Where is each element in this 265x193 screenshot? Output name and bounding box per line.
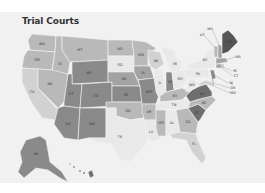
state-label-nc: NC <box>201 101 207 105</box>
state-mi[interactable] <box>160 46 182 72</box>
state-label-ms: MS <box>158 121 164 125</box>
callout-label-md: MD <box>230 91 236 95</box>
state-label-la: LA <box>149 130 154 134</box>
hawaii-island[interactable] <box>73 166 75 168</box>
state-ct[interactable] <box>216 64 222 68</box>
map-panel: Trial Courts WAORCAIDNVMTWYUTCOAZNMNDSDN… <box>0 12 265 183</box>
state-label-az: AZ <box>66 122 71 126</box>
callout-leader-line <box>204 35 215 48</box>
state-label-mt: MT <box>77 48 83 52</box>
state-label-or: OR <box>34 58 40 62</box>
callout-leader-line <box>226 57 235 60</box>
hawaii-islands <box>69 163 85 174</box>
callout-label-nh: NH <box>207 27 213 31</box>
hawaii-island[interactable] <box>79 170 81 172</box>
state-label-sd: SD <box>117 63 122 67</box>
callout-label-de: DE <box>230 86 236 90</box>
state-label-tx: TX <box>117 135 123 139</box>
state-mt[interactable] <box>62 36 108 62</box>
callout-label-vt: VT <box>200 33 205 37</box>
state-label-wi: WI <box>154 59 159 63</box>
state-label-il: IL <box>158 81 161 85</box>
state-ma[interactable] <box>216 58 228 64</box>
callout-leader-line <box>214 75 228 83</box>
state-label-va: VA <box>200 92 205 96</box>
callout-label-ma: MA <box>235 55 241 59</box>
state-label-nd: ND <box>117 47 123 51</box>
state-label-fl: FL <box>192 142 196 146</box>
callout-leader-line <box>223 67 232 71</box>
callout-leader-line <box>213 83 230 88</box>
state-label-id: ID <box>58 62 62 66</box>
state-label-oh: OH <box>177 77 183 81</box>
state-label-ks: KS <box>124 93 129 97</box>
state-label-nm: NM <box>89 122 95 126</box>
callout-label-ct: CT <box>234 74 240 78</box>
state-nh[interactable] <box>218 44 222 58</box>
state-label-pa: PA <box>196 72 201 76</box>
state-label-me: ME <box>227 40 233 44</box>
state-vt[interactable] <box>214 46 218 58</box>
callout-leader-line <box>220 67 233 76</box>
states-layer <box>18 30 238 182</box>
state-label-nv: NV <box>47 82 53 86</box>
callout-leader-line <box>212 29 219 45</box>
callout-label-ri: RI <box>233 69 237 73</box>
state-label-sc: SC <box>195 111 200 115</box>
us-states-map: WAORCAIDNVMTWYUTCOAZNMNDSDNEKSOKTXMNIAMO… <box>0 12 265 183</box>
state-label-ak: AK <box>34 152 39 156</box>
state-label-in: IN <box>168 80 172 84</box>
state-label-ut: UT <box>69 92 75 96</box>
hawaii-island[interactable] <box>83 172 85 174</box>
callout-leader-line <box>209 84 230 93</box>
callout-label-nj: NJ <box>229 81 233 85</box>
state-label-mn: MN <box>138 53 144 57</box>
state-label-tn: TN <box>171 103 177 107</box>
state-label-ia: IA <box>141 71 145 75</box>
state-label-wy: WY <box>86 71 93 75</box>
state-label-mi: MI <box>173 62 177 66</box>
state-label-wa: WA <box>39 42 45 46</box>
state-label-ok: OK <box>125 109 131 113</box>
state-label-ca: CA <box>30 90 36 94</box>
state-label-al: AL <box>170 121 174 125</box>
state-nj[interactable] <box>210 70 216 80</box>
state-label-ar: AR <box>147 110 152 114</box>
state-label-ga: GA <box>185 120 191 124</box>
state-label-co: CO <box>93 94 99 98</box>
state-hi[interactable] <box>88 170 94 178</box>
hawaii-island[interactable] <box>69 163 70 164</box>
state-fl[interactable] <box>170 132 206 164</box>
state-label-mo: MO <box>146 90 152 94</box>
state-label-ny: NY <box>203 58 209 62</box>
state-label-wv: WV <box>189 83 196 87</box>
state-ak[interactable] <box>18 136 68 182</box>
state-label-ne: NE <box>122 77 128 81</box>
